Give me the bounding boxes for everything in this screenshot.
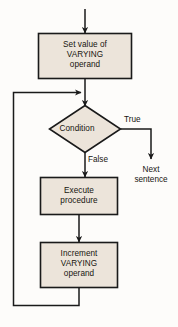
node-next-sentence-label: Next sentence: [126, 165, 176, 185]
node-execute: [41, 178, 118, 215]
node-increment: [41, 243, 118, 288]
edge-label-true: True: [124, 115, 141, 125]
node-set-value: [39, 34, 132, 79]
flowchart-canvas: Set value of VARYING operand Condition E…: [0, 0, 178, 327]
node-condition: [50, 106, 121, 153]
edge-label-false: False: [88, 155, 108, 165]
edge-true-branch: [121, 129, 152, 159]
